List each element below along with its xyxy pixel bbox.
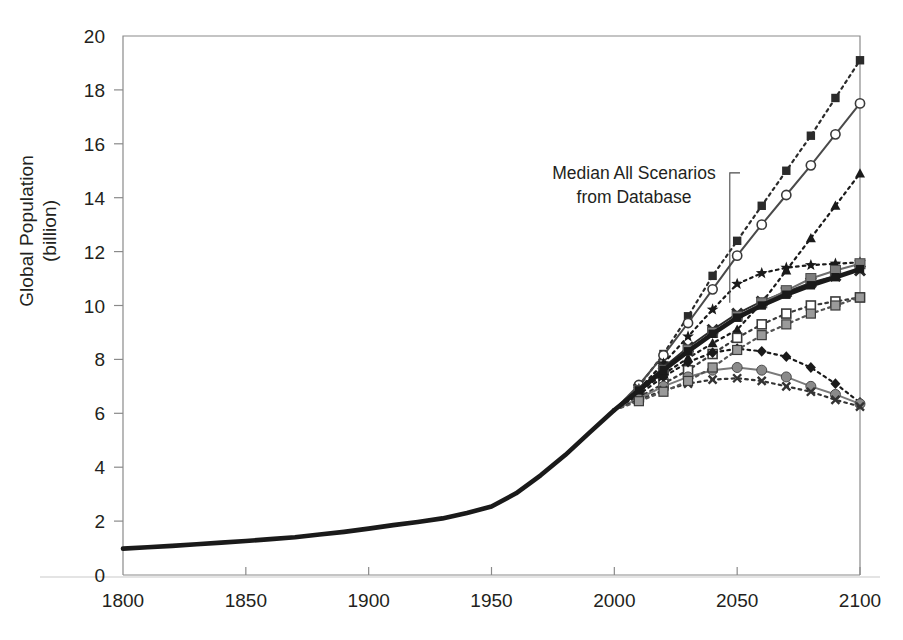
y-tick-label: 14 — [84, 188, 106, 209]
plot-frame — [123, 36, 860, 575]
data-point-marker — [732, 362, 742, 372]
data-point-marker — [831, 301, 840, 310]
data-point-marker — [781, 351, 791, 362]
y-tick-label: 18 — [84, 80, 105, 101]
data-point-marker — [733, 237, 741, 245]
data-point-marker — [757, 220, 766, 229]
data-point-marker — [831, 273, 839, 281]
data-point-marker — [757, 320, 766, 329]
x-tick-label: 1950 — [470, 590, 512, 611]
data-point-marker — [757, 346, 767, 357]
data-point-marker — [733, 251, 742, 260]
scenario-line — [614, 367, 860, 410]
data-point-marker — [806, 309, 815, 318]
y-tick-label: 8 — [94, 349, 105, 370]
scenario-line — [614, 60, 860, 410]
data-point-marker — [806, 233, 816, 242]
data-point-marker — [733, 345, 742, 354]
y-tick-label: 2 — [94, 511, 105, 532]
data-point-marker — [831, 130, 840, 139]
data-point-marker — [757, 331, 766, 340]
data-point-marker — [830, 378, 840, 389]
data-point-marker — [758, 301, 766, 309]
scenario-line — [614, 173, 860, 410]
data-point-marker — [709, 376, 717, 384]
annotation-text-line: from Database — [577, 187, 692, 207]
population-projection-chart: Global Population (billion) 024681012141… — [0, 0, 903, 640]
y-tick-label: 12 — [84, 242, 105, 263]
historical-population-line — [123, 410, 614, 549]
data-point-marker — [781, 372, 791, 382]
data-point-marker — [634, 397, 643, 406]
data-point-marker — [782, 382, 790, 390]
data-point-marker — [708, 285, 717, 294]
y-tick-label: 0 — [94, 565, 105, 586]
data-point-marker — [659, 387, 668, 396]
data-point-marker — [659, 366, 667, 374]
data-point-marker — [782, 291, 790, 299]
y-tick-label: 10 — [84, 296, 105, 317]
data-point-marker — [708, 272, 716, 280]
data-point-marker — [782, 320, 791, 329]
y-tick-label: 16 — [84, 134, 105, 155]
data-point-marker — [855, 99, 864, 108]
annotation-text-line: Median All Scenarios — [552, 163, 716, 183]
data-point-marker — [684, 347, 692, 355]
data-point-marker — [708, 338, 718, 347]
y-tick-label: 4 — [94, 457, 105, 478]
data-point-marker — [831, 94, 839, 102]
x-tick-label: 1900 — [348, 590, 390, 611]
data-point-marker — [806, 161, 815, 170]
data-point-marker — [807, 281, 815, 289]
x-tick-label: 2050 — [716, 590, 758, 611]
data-point-marker — [830, 201, 840, 210]
data-point-marker — [757, 365, 767, 375]
data-point-marker — [635, 386, 643, 394]
x-tick-label: 2000 — [593, 590, 635, 611]
data-point-marker — [733, 313, 741, 321]
data-point-marker — [708, 363, 717, 372]
data-point-marker — [855, 168, 865, 177]
data-point-marker — [782, 309, 791, 318]
data-point-marker — [684, 376, 693, 385]
data-point-marker — [805, 259, 817, 270]
data-point-marker — [756, 267, 768, 278]
data-point-marker — [683, 318, 692, 327]
data-point-marker — [782, 190, 791, 199]
chart-canvas: 0246810121416182018001850190019502000205… — [0, 0, 903, 640]
y-tick-label: 20 — [84, 26, 105, 47]
data-point-marker — [708, 330, 716, 338]
data-point-marker — [733, 333, 742, 342]
data-point-marker — [856, 56, 864, 64]
data-point-marker — [758, 202, 766, 210]
data-point-marker — [856, 293, 865, 302]
x-tick-label: 1800 — [102, 590, 144, 611]
data-point-marker — [856, 265, 864, 273]
x-tick-label: 1850 — [225, 590, 267, 611]
x-tick-label: 2100 — [839, 590, 881, 611]
data-point-marker — [807, 132, 815, 140]
y-tick-label: 6 — [94, 403, 105, 424]
data-point-marker — [782, 167, 790, 175]
data-point-marker — [806, 362, 816, 373]
